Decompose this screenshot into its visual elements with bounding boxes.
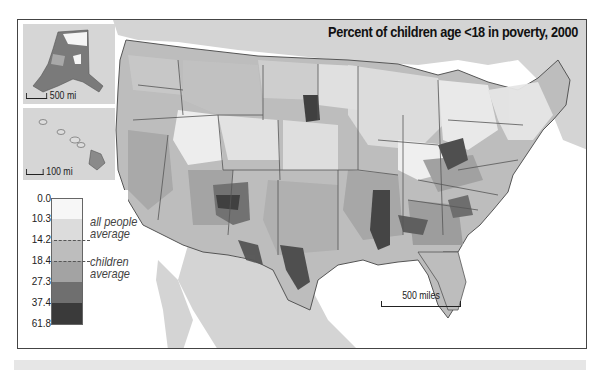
swatch-class-3	[52, 240, 82, 261]
alaska-inset: 500 mi	[23, 24, 115, 104]
swatch-class-1	[52, 199, 82, 219]
bottom-strip	[14, 360, 586, 370]
legend-label-0: 0.0	[26, 192, 51, 204]
children-average-line	[54, 261, 90, 262]
children-average-label: children average	[90, 256, 130, 280]
main-scale-label: 500 miles	[386, 290, 456, 301]
all-people-average-label: all people average	[90, 216, 137, 240]
swatch-class-6	[52, 303, 82, 324]
swatch-class-5	[52, 282, 82, 303]
main-scale-bar: 500 miles	[381, 290, 461, 307]
legend-label-4: 27.3	[26, 275, 51, 287]
legend-label-2: 14.2	[26, 233, 51, 245]
legend-label-5: 37.4	[26, 296, 51, 308]
legend-label-3: 18.4	[26, 254, 51, 266]
legend-label-6: 61.8	[26, 317, 51, 329]
scale-bar-line	[381, 301, 461, 307]
all-people-average-line	[54, 240, 90, 241]
swatch-class-2	[52, 219, 82, 240]
map-frame: Percent of children age <18 in poverty, …	[17, 19, 587, 349]
alaska-scale: 500 mi	[26, 90, 76, 101]
hawaii-inset: 100 mi	[23, 108, 115, 180]
swatch-class-4	[52, 261, 82, 282]
legend: 0.0 10.3 14.2 18.4 27.3 37.4 61.8 all pe…	[18, 190, 128, 349]
chart-title: Percent of children age <18 in poverty, …	[328, 24, 578, 40]
hawaii-scale: 100 mi	[26, 166, 73, 177]
legend-label-1: 10.3	[26, 212, 51, 224]
